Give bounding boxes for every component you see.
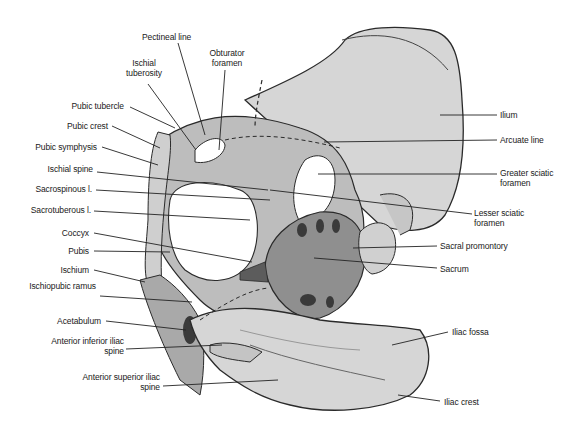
label-obturator-foramen: Obturator foramen (202, 48, 252, 68)
label-acetabulum: Acetabulum (0, 316, 101, 326)
label-ischial-spine: Ischial spine (0, 164, 93, 174)
pelvis-diagram: Pectineal line Ischial tuberosity Obtura… (0, 0, 578, 440)
label-greater-sciatic-foramen: Greater sciatic foramen (500, 168, 570, 188)
label-sacrum: Sacrum (440, 264, 469, 274)
label-sacrospinous-ligament: Sacrospinous l. (0, 184, 92, 194)
label-sacrotuberous-ligament: Sacrotuberous l. (0, 205, 91, 215)
label-ischium: Ischium (0, 265, 89, 275)
label-ischiopubic-ramus: Ischiopubic ramus (20, 281, 96, 291)
sacral-promontory-shape (359, 223, 396, 274)
pelvic-inlet (169, 183, 258, 281)
label-lesser-sciatic-foramen: Lesser sciatic foramen (474, 208, 544, 228)
label-ilium: Ilium (500, 110, 517, 120)
label-anterior-inferior-iliac-spine: Anterior inferior iliac spine (40, 336, 124, 356)
label-iliac-crest: Iliac crest (444, 397, 479, 407)
label-coccyx: Coccyx (0, 228, 89, 238)
label-ischial-tuberosity: Ischial tuberosity (118, 58, 170, 78)
label-arcuate-line: Arcuate line (500, 135, 544, 145)
label-pubis: Pubis (0, 246, 89, 256)
label-pubic-crest: Pubic crest (20, 121, 108, 131)
label-pubic-symphysis: Pubic symphysis (0, 142, 97, 152)
label-pubic-tubercle: Pubic tubercle (20, 101, 124, 111)
label-iliac-fossa: Iliac fossa (452, 327, 489, 337)
label-pectineal-line: Pectineal line (142, 32, 191, 42)
label-sacral-promontory: Sacral promontory (440, 241, 508, 251)
iliac-fossa-shape (190, 308, 429, 410)
label-anterior-superior-iliac-spine: Anterior superior iliac spine (80, 372, 160, 392)
